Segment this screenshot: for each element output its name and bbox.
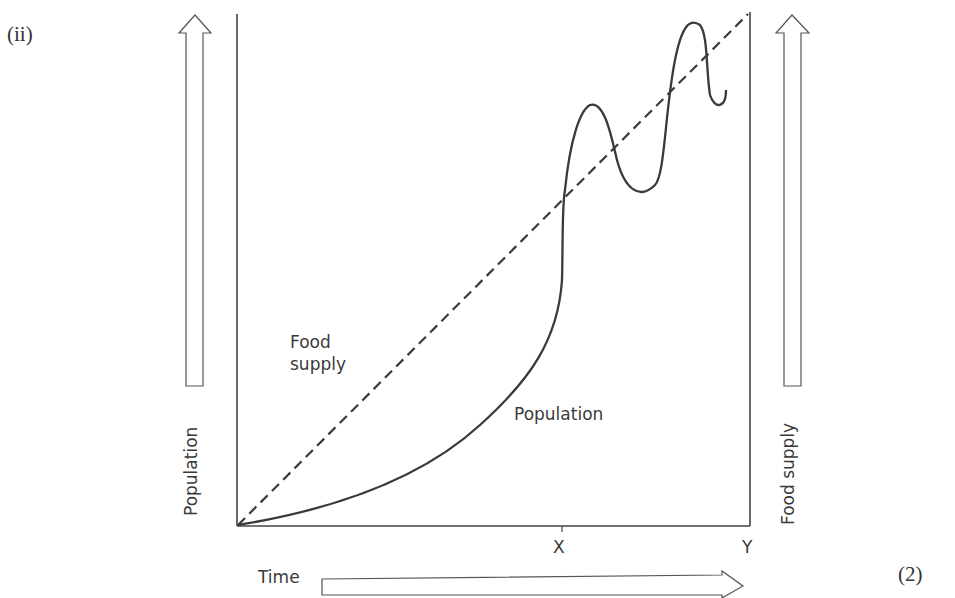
food-supply-label-line2: supply [290,353,346,375]
food-supply-curve-label: Food supply [290,331,346,375]
population-food-supply-diagram [0,0,955,598]
y-tick-label: Y [742,537,752,557]
food-supply-label-line1: Food [290,331,346,353]
time-axis-label: Time [258,567,300,587]
population-axis-label: Population [181,427,201,516]
time-axis-arrow-icon [322,571,743,598]
population-curve [238,23,726,525]
food-supply-axis-arrow-icon [776,15,809,386]
population-axis-arrow-icon [179,15,211,386]
food-supply-line [238,14,748,525]
x-tick-label: X [553,537,565,557]
food-supply-axis-label: Food supply [778,423,798,525]
population-curve-label: Population [514,404,603,424]
